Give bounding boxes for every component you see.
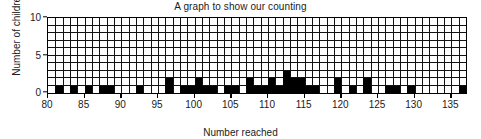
x-tick-mark (304, 94, 305, 98)
bar (407, 86, 414, 94)
bar (195, 78, 202, 93)
x-tick-mark (414, 94, 415, 98)
bar (107, 86, 114, 94)
bar (305, 86, 312, 94)
bar (297, 78, 304, 93)
bar (268, 78, 275, 93)
x-tick-label: 125 (369, 99, 386, 110)
bar (136, 86, 143, 94)
bar (393, 86, 400, 94)
bar (290, 78, 297, 93)
chart-title: A graph to show our counting (0, 1, 481, 12)
x-tick-label: 80 (41, 99, 52, 110)
x-tick-mark (120, 94, 121, 98)
bar (349, 86, 356, 94)
x-tick-label: 135 (442, 99, 459, 110)
bar (209, 86, 216, 94)
x-tick-label: 90 (115, 99, 126, 110)
bar (187, 86, 194, 94)
bar (283, 71, 290, 94)
bar (312, 86, 319, 94)
bar (363, 78, 370, 93)
x-tick-mark (157, 94, 158, 98)
bar (180, 86, 187, 94)
bar (55, 86, 62, 94)
bar (275, 86, 282, 94)
x-tick-mark (377, 94, 378, 98)
bar (253, 86, 260, 94)
x-tick-label: 120 (332, 99, 349, 110)
bar (334, 78, 341, 93)
x-tick-mark (267, 94, 268, 98)
y-tick-label: 10 (30, 12, 41, 23)
bar (224, 86, 231, 94)
x-tick-label: 85 (78, 99, 89, 110)
x-tick-mark (340, 94, 341, 98)
x-axis-ticks: 80859095100105110115120125130135 (47, 94, 467, 116)
x-tick-mark (194, 94, 195, 98)
bar (261, 86, 268, 94)
chart-figure: A graph to show our counting Number of c… (0, 0, 481, 139)
x-tick-label: 100 (185, 99, 202, 110)
x-tick-label: 115 (296, 99, 312, 110)
bar (459, 86, 466, 94)
x-tick-mark (47, 94, 48, 98)
bar (202, 86, 209, 94)
bar (85, 86, 92, 94)
x-tick-label: 105 (222, 99, 239, 110)
x-tick-mark (230, 94, 231, 98)
y-tick-label: 5 (35, 49, 41, 60)
bar (70, 86, 77, 94)
y-axis-ticks: 0510 (0, 17, 47, 94)
x-tick-mark (450, 94, 451, 98)
x-tick-label: 110 (259, 99, 275, 110)
bar (231, 86, 238, 94)
bar (165, 78, 172, 93)
x-tick-label: 95 (151, 99, 162, 110)
bar (246, 78, 253, 93)
x-tick-label: 130 (405, 99, 422, 110)
bar-series (48, 18, 466, 93)
y-tick-label: 0 (35, 87, 41, 98)
bar (385, 86, 392, 94)
plot-area (47, 17, 467, 94)
x-axis-label: Number reached (0, 127, 481, 138)
x-tick-mark (84, 94, 85, 98)
bar (99, 86, 106, 94)
